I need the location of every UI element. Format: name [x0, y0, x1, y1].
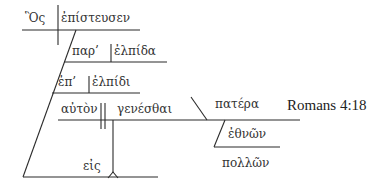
- infinitive-word: γενέσθαι: [117, 102, 172, 116]
- genitive-slant: [214, 120, 225, 147]
- infinitive-subject-word: αὐτὸν: [61, 102, 98, 116]
- prep-3-word: εἰς: [83, 158, 101, 173]
- subject-word: Ὃς: [25, 11, 46, 25]
- object-1-word: ἐλπίδα: [114, 44, 156, 58]
- verb-word: ἐπίστευσεν: [61, 11, 130, 25]
- prep-1-word: παρ’: [72, 44, 99, 58]
- genitive-word: ἐθνῶν: [228, 127, 266, 141]
- predicate-word: πατέρα: [215, 97, 259, 111]
- sentence-diagram: Ὃς ἐπίστευσεν παρ’ ἐλπίδα ἐπ’ ἐλπίδι αὐτ…: [0, 0, 382, 191]
- modifier-word: πολλῶν: [222, 156, 269, 170]
- predicate-slant: [191, 97, 207, 120]
- prep-2-word: ἐπ’: [58, 75, 76, 89]
- object-2-word: ἐλπίδι: [92, 75, 131, 89]
- verse-reference: Romans 4:18: [287, 97, 367, 113]
